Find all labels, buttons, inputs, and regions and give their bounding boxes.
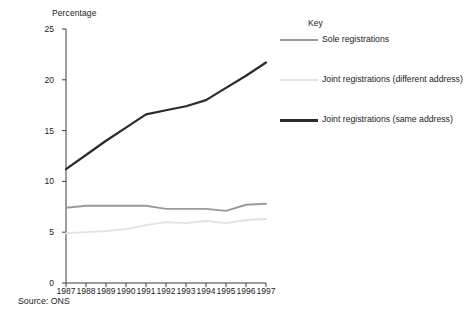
series-lines-group <box>66 63 266 234</box>
y-axis-ticks <box>62 29 66 283</box>
y-tick-label: 25 <box>32 24 54 34</box>
legend-swatch-line-icon <box>280 119 318 122</box>
series-line <box>66 63 266 170</box>
source-note: Source: ONS <box>18 296 70 306</box>
legend-item-label: Sole registrations <box>322 34 389 44</box>
legend-title: Key <box>308 18 466 28</box>
y-tick-label: 10 <box>32 176 54 186</box>
y-tick-label: 0 <box>32 278 54 288</box>
legend-item-label: Joint registrations (different address) <box>322 74 463 84</box>
series-line <box>66 204 266 211</box>
chart-figure: Percentage 0510152025 198719881989199019… <box>0 0 466 319</box>
legend-items: Sole registrationsJoint registrations (d… <box>306 34 466 130</box>
legend-item-label: Joint registrations (same address) <box>322 114 453 124</box>
legend-swatch-line-icon <box>280 39 318 41</box>
legend-item[interactable]: Joint registrations (same address) <box>306 114 466 130</box>
y-tick-label: 15 <box>32 126 54 136</box>
chart-legend: Key Sole registrationsJoint registration… <box>306 18 466 130</box>
y-tick-label: 20 <box>32 75 54 85</box>
axis-lines <box>66 29 266 283</box>
legend-swatch-line-icon <box>280 79 318 81</box>
y-tick-label: 5 <box>32 227 54 237</box>
x-tick-label: 1997 <box>253 286 279 296</box>
legend-item[interactable]: Sole registrations <box>306 34 466 74</box>
series-line <box>66 219 266 233</box>
legend-item[interactable]: Joint registrations (different address) <box>306 74 466 114</box>
